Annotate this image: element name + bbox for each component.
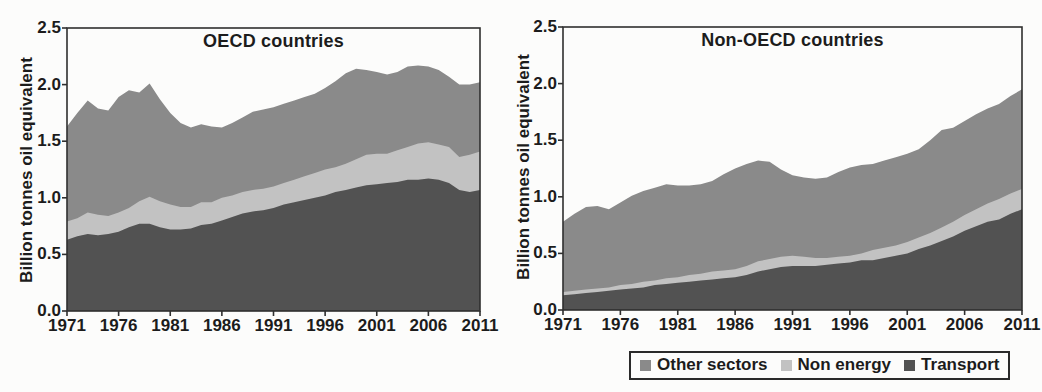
legend-label-other-sectors: Other sectors xyxy=(657,355,768,375)
x-tick-label: 1971 xyxy=(535,316,591,334)
y-tick-label: 2.0 xyxy=(513,75,557,93)
legend-item-transport: Transport xyxy=(904,355,999,375)
x-tick-label: 2001 xyxy=(879,316,935,334)
y-tick-label: 2.5 xyxy=(513,18,557,36)
legend: Other sectors Non energy Transport xyxy=(629,351,1010,380)
x-tick-label: 1996 xyxy=(822,316,878,334)
y-tick-label: 0.5 xyxy=(513,244,557,262)
legend-item-other-sectors: Other sectors xyxy=(640,355,768,375)
x-tick-label: 1976 xyxy=(592,316,648,334)
y-tick-label: 1.5 xyxy=(513,131,557,149)
legend-item-non-energy: Non energy xyxy=(781,355,892,375)
x-tick-label: 1986 xyxy=(707,316,763,334)
x-tick-label: 1991 xyxy=(765,316,821,334)
x-tick-label: 2006 xyxy=(937,316,993,334)
legend-label-transport: Transport xyxy=(921,355,999,375)
transport-swatch-icon xyxy=(904,360,915,371)
y-tick-label: 1.0 xyxy=(513,188,557,206)
other-sectors-swatch-icon xyxy=(640,360,651,371)
non-oecd-chart: Billion tonnes oil equivalent Non-OECD c… xyxy=(0,0,1042,392)
non-energy-swatch-icon xyxy=(781,360,792,371)
x-tick-label: 1981 xyxy=(650,316,706,334)
non-oecd-plot-area xyxy=(563,27,1022,310)
x-tick-label: 2011 xyxy=(994,316,1042,334)
legend-label-non-energy: Non energy xyxy=(798,355,892,375)
